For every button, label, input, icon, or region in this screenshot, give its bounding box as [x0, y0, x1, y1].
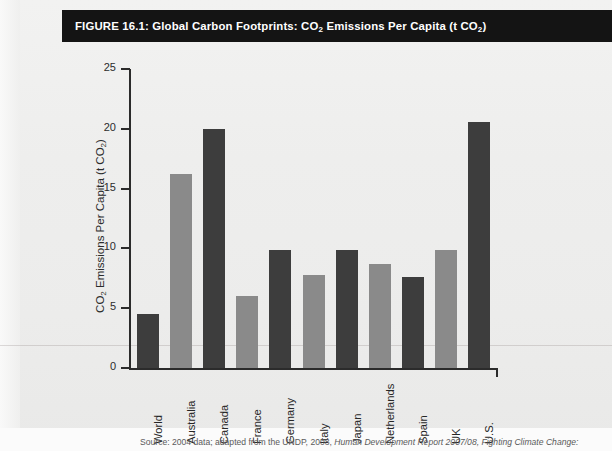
bar: [369, 264, 391, 368]
bar: [336, 250, 358, 368]
y-tick-label: 5: [90, 300, 116, 312]
source-note: Source: 2004 data; adapted from the UNDP…: [140, 437, 610, 447]
bar: [137, 314, 159, 368]
bar-series: [131, 69, 496, 368]
y-tick-label: 15: [90, 181, 116, 193]
bar: [236, 296, 258, 368]
bar: [170, 174, 192, 368]
y-axis-title-sub-2: 2: [99, 143, 108, 147]
y-tick-label: 25: [90, 61, 116, 73]
figure-page: FIGURE 16.1: Global Carbon Footprints: C…: [0, 0, 612, 451]
bar: [402, 277, 424, 368]
bar: [468, 122, 490, 368]
bar: [269, 250, 291, 368]
x-axis-line: [129, 368, 498, 370]
source-note-title: Human Development Report 2007/08, Fighti…: [334, 437, 578, 447]
y-tick-label: 20: [90, 121, 116, 133]
bar: [303, 275, 325, 368]
y-axis-title-mid: Emissions Per Capita (t CO: [94, 147, 106, 291]
y-tick-label: 10: [90, 240, 116, 252]
y-axis-title-sub-1: 2: [99, 291, 108, 295]
y-tick-label: 0: [90, 360, 116, 372]
x-axis-label: Netherlands: [384, 384, 396, 444]
bar: [435, 250, 457, 368]
x-axis-end-tick: [496, 368, 498, 377]
bar: [203, 129, 225, 368]
source-note-lead: Source: 2004 data; adapted from the UNDP…: [140, 437, 334, 447]
bar-chart: CO2 Emissions Per Capita (t CO2) 2520151…: [0, 0, 612, 451]
